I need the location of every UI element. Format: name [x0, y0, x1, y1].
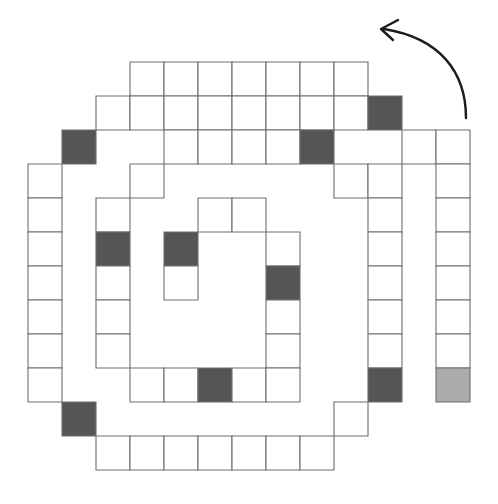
- spiral-cell: [368, 368, 402, 402]
- spiral-cell: [96, 334, 130, 368]
- spiral-cell: [198, 198, 232, 232]
- spiral-cell: [130, 436, 164, 470]
- spiral-cell: [96, 232, 130, 266]
- spiral-cell: [130, 368, 164, 402]
- spiral-cell: [96, 96, 130, 130]
- spiral-cell: [436, 368, 470, 402]
- spiral-cell: [436, 334, 470, 368]
- spiral-cell: [266, 232, 300, 266]
- spiral-cell: [436, 130, 470, 164]
- spiral-cell: [266, 334, 300, 368]
- spiral-cell: [402, 130, 436, 164]
- spiral-cell: [334, 164, 368, 198]
- spiral-cell: [130, 96, 164, 130]
- spiral-cell: [266, 300, 300, 334]
- spiral-cell: [96, 300, 130, 334]
- spiral-cell: [164, 266, 198, 300]
- spiral-cell: [96, 266, 130, 300]
- spiral-cell: [28, 232, 62, 266]
- spiral-cell: [232, 436, 266, 470]
- spiral-figure: Counterclockwise square spiral of cells: [0, 0, 498, 504]
- spiral-cell: [436, 266, 470, 300]
- spiral-cell: [436, 232, 470, 266]
- spiral-diagram-canvas: [0, 0, 498, 504]
- spiral-cell: [266, 62, 300, 96]
- spiral-cell: [28, 300, 62, 334]
- spiral-cell: [300, 130, 334, 164]
- spiral-cell: [164, 232, 198, 266]
- spiral-cell: [232, 368, 266, 402]
- spiral-cell: [266, 368, 300, 402]
- spiral-cell: [334, 62, 368, 96]
- spiral-cell: [198, 62, 232, 96]
- spiral-cell: [28, 198, 62, 232]
- spiral-cell: [164, 436, 198, 470]
- spiral-cell: [28, 368, 62, 402]
- spiral-cell: [28, 164, 62, 198]
- spiral-cell: [130, 164, 164, 198]
- spiral-cell: [96, 198, 130, 232]
- spiral-cell: [28, 266, 62, 300]
- spiral-cell: [130, 62, 164, 96]
- spiral-cell: [198, 130, 232, 164]
- spiral-cell: [300, 436, 334, 470]
- spiral-cell: [266, 130, 300, 164]
- spiral-cell: [368, 300, 402, 334]
- spiral-cell: [164, 62, 198, 96]
- spiral-cell: [368, 232, 402, 266]
- spiral-cell: [232, 130, 266, 164]
- spiral-cell: [96, 436, 130, 470]
- spiral-cell: [368, 334, 402, 368]
- spiral-cell: [368, 266, 402, 300]
- spiral-cell: [266, 96, 300, 130]
- spiral-cell: [436, 198, 470, 232]
- spiral-cell: [334, 96, 368, 130]
- spiral-cell: [28, 334, 62, 368]
- spiral-cell: [368, 96, 402, 130]
- spiral-cell: [300, 62, 334, 96]
- spiral-cell: [368, 198, 402, 232]
- spiral-cell: [198, 436, 232, 470]
- spiral-cell: [198, 368, 232, 402]
- spiral-cell: [232, 96, 266, 130]
- spiral-cell: [436, 164, 470, 198]
- spiral-cell: [62, 130, 96, 164]
- spiral-cell: [62, 402, 96, 436]
- spiral-cell: [232, 198, 266, 232]
- spiral-cell: [164, 130, 198, 164]
- spiral-cell: [368, 164, 402, 198]
- spiral-cell: [164, 368, 198, 402]
- spiral-cell-group: [28, 62, 470, 470]
- spiral-cell: [232, 62, 266, 96]
- spiral-cell: [198, 96, 232, 130]
- spiral-cell: [334, 402, 368, 436]
- spiral-cell: [266, 436, 300, 470]
- spiral-cell: [266, 266, 300, 300]
- spiral-cell: [300, 96, 334, 130]
- spiral-cell: [436, 300, 470, 334]
- spiral-cell: [164, 96, 198, 130]
